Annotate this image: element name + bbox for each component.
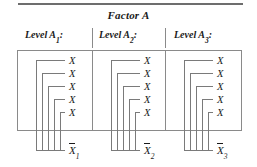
observation-value: X <box>144 95 150 106</box>
connector-horizontal <box>54 99 65 100</box>
observation-value: X <box>69 95 75 106</box>
connector-horizontal <box>202 99 213 100</box>
connector-horizontal <box>129 99 140 100</box>
connector-vertical <box>129 99 130 150</box>
level-group-2: X X X X X X2 <box>92 50 165 167</box>
level-header-1-subscript: 1 <box>56 36 60 45</box>
connector-vertical <box>42 73 43 150</box>
mean-collector-bar <box>36 150 65 151</box>
group-mean-label: X1 <box>69 144 79 159</box>
level-header-3-label: Level A <box>174 29 205 40</box>
level-header-1-suffix: : <box>60 29 63 40</box>
connector-vertical <box>117 73 118 150</box>
connector-vertical <box>48 86 49 150</box>
level-header-row: Level A1: Level A2: Level A3: <box>17 29 242 47</box>
top-horizontal-rule <box>18 3 243 5</box>
connector-vertical <box>36 60 37 150</box>
group-mean-symbol: X <box>69 144 76 156</box>
connector-horizontal <box>36 60 65 61</box>
connector-vertical <box>54 99 55 150</box>
connector-vertical <box>190 73 191 150</box>
page-title: Factor A <box>0 9 257 21</box>
connector-vertical <box>123 86 124 150</box>
connector-vertical <box>135 112 136 150</box>
connector-vertical <box>60 112 61 150</box>
observation-value: X <box>217 69 223 80</box>
mean-collector-bar <box>111 150 140 151</box>
group-mean-subscript: 2 <box>151 152 155 161</box>
connector-vertical <box>202 99 203 150</box>
connector-horizontal <box>184 60 213 61</box>
connector-vertical <box>184 60 185 150</box>
observation-value: X <box>69 108 75 119</box>
connector-horizontal <box>48 86 65 87</box>
connector-vertical <box>111 60 112 150</box>
group-mean-symbol: X <box>217 144 224 156</box>
group-mean-subscript: 1 <box>76 152 80 161</box>
connector-horizontal <box>117 73 140 74</box>
connector-horizontal <box>190 73 213 74</box>
level-header-3-suffix: : <box>209 29 212 40</box>
connector-vertical <box>208 112 209 150</box>
group-mean-subscript: 3 <box>224 152 228 161</box>
level-header-1-label: Level A <box>25 29 56 40</box>
connector-horizontal <box>42 73 65 74</box>
observation-value: X <box>217 56 223 67</box>
level-header-2-suffix: : <box>134 29 137 40</box>
connector-horizontal <box>196 86 213 87</box>
connector-vertical <box>196 86 197 150</box>
level-header-2-subscript: 2 <box>130 36 134 45</box>
mean-collector-bar <box>184 150 213 151</box>
group-mean-label: X2 <box>144 144 154 159</box>
connector-horizontal <box>123 86 140 87</box>
group-mean-symbol: X <box>144 144 151 156</box>
header-divider-2 <box>165 28 166 48</box>
level-header-2-label: Level A <box>99 29 130 40</box>
observation-value: X <box>217 82 223 93</box>
observation-value: X <box>144 82 150 93</box>
level-header-3: Level A3: <box>174 29 212 47</box>
observation-value: X <box>144 56 150 67</box>
anova-factor-diagram: Factor A Level A1: Level A2: Level A3: X… <box>0 0 257 167</box>
observation-value: X <box>69 69 75 80</box>
observation-value: X <box>144 69 150 80</box>
level-header-3-subscript: 3 <box>205 36 209 45</box>
observation-value: X <box>144 108 150 119</box>
level-header-1: Level A1: <box>25 29 63 47</box>
header-divider-1 <box>92 28 93 48</box>
connector-horizontal <box>111 60 140 61</box>
observation-value: X <box>69 56 75 67</box>
group-mean-label: X3 <box>217 144 227 159</box>
level-header-2: Level A2: <box>99 29 137 47</box>
level-group-3: X X X X X X3 <box>165 50 242 167</box>
observation-value: X <box>217 95 223 106</box>
observation-value: X <box>69 82 75 93</box>
observation-value: X <box>217 108 223 119</box>
level-group-1: X X X X X X1 <box>17 50 92 167</box>
